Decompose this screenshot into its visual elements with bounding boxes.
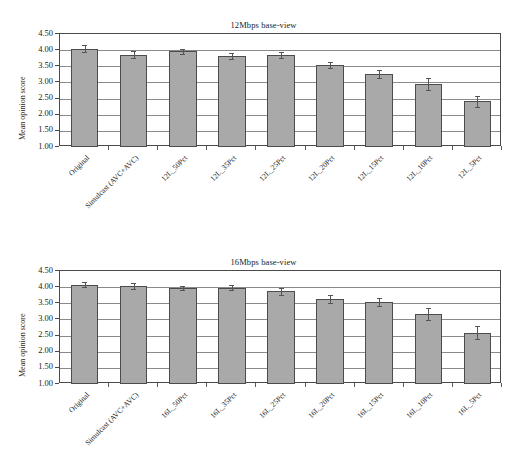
error-bar xyxy=(477,96,478,108)
x-tick-mark xyxy=(403,146,404,150)
error-bar-cap-bottom xyxy=(229,59,234,60)
error-bar-cap-top xyxy=(131,283,136,284)
y-tick-mark xyxy=(55,270,59,271)
y-tick-label: 4.00 xyxy=(25,281,53,291)
error-bar xyxy=(330,295,331,303)
chart-panel-16mbps: 16Mbps base-view Mean opinion score 1.00… xyxy=(0,237,527,474)
y-tick-label: 2.00 xyxy=(25,108,53,118)
error-bar-cap-bottom xyxy=(131,58,136,59)
x-tick-mark xyxy=(255,383,256,387)
figure-container: 12Mbps base-view Mean opinion score 1.00… xyxy=(0,0,527,474)
y-tick-mark xyxy=(55,335,59,336)
error-bar-cap-top xyxy=(279,52,284,53)
error-bar-cap-top xyxy=(377,298,382,299)
gridline xyxy=(60,50,500,51)
error-bar xyxy=(379,298,380,306)
error-bar xyxy=(477,326,478,340)
bar xyxy=(120,55,148,147)
error-bar-cap-top xyxy=(82,282,87,283)
bar xyxy=(365,74,393,147)
y-tick-mark xyxy=(55,65,59,66)
error-bar-cap-bottom xyxy=(377,306,382,307)
error-bar-cap-top xyxy=(426,308,431,309)
error-bar-cap-bottom xyxy=(475,339,480,340)
error-bar-cap-bottom xyxy=(426,320,431,321)
y-tick-mark xyxy=(55,367,59,368)
bar xyxy=(218,288,246,384)
error-bar-cap-top xyxy=(426,78,431,79)
bar xyxy=(316,65,344,147)
chart-title: 16Mbps base-view xyxy=(0,257,527,267)
error-bar-cap-top xyxy=(279,288,284,289)
error-bar-cap-top xyxy=(475,96,480,97)
error-bar-cap-top xyxy=(180,286,185,287)
y-tick-mark xyxy=(55,33,59,34)
bar xyxy=(169,51,197,147)
x-tick-mark xyxy=(501,383,502,387)
x-tick-mark xyxy=(206,383,207,387)
y-tick-label: 2.00 xyxy=(25,345,53,355)
x-tick-mark xyxy=(354,383,355,387)
error-bar-cap-bottom xyxy=(377,78,382,79)
bar xyxy=(415,314,443,384)
y-tick-mark xyxy=(55,318,59,319)
x-tick-mark xyxy=(305,146,306,150)
y-tick-label: 1.00 xyxy=(25,141,53,151)
error-bar-cap-bottom xyxy=(131,289,136,290)
error-bar-cap-bottom xyxy=(180,54,185,55)
y-tick-label: 4.00 xyxy=(25,44,53,54)
x-tick-mark xyxy=(255,146,256,150)
error-bar-cap-bottom xyxy=(475,107,480,108)
x-tick-mark xyxy=(157,383,158,387)
bar xyxy=(267,55,295,147)
x-tick-mark xyxy=(108,146,109,150)
error-bar-cap-top xyxy=(377,70,382,71)
error-bar-cap-bottom xyxy=(328,303,333,304)
y-tick-mark xyxy=(55,302,59,303)
y-tick-mark xyxy=(55,286,59,287)
y-tick-mark xyxy=(55,351,59,352)
error-bar xyxy=(428,78,429,90)
x-tick-mark xyxy=(305,383,306,387)
y-tick-label: 3.50 xyxy=(25,60,53,70)
error-bar xyxy=(428,308,429,320)
error-bar-cap-top xyxy=(180,49,185,50)
y-tick-mark xyxy=(55,81,59,82)
bar xyxy=(71,49,99,147)
error-bar-cap-top xyxy=(328,295,333,296)
y-tick-mark xyxy=(55,383,59,384)
chart-panel-12mbps: 12Mbps base-view Mean opinion score 1.00… xyxy=(0,0,527,237)
y-tick-label: 3.00 xyxy=(25,313,53,323)
chart-title: 12Mbps base-view xyxy=(0,20,527,30)
y-tick-label: 1.00 xyxy=(25,378,53,388)
error-bar-cap-bottom xyxy=(229,290,234,291)
y-tick-mark xyxy=(55,49,59,50)
bar xyxy=(415,84,443,147)
error-bar xyxy=(379,70,380,78)
x-tick-mark xyxy=(108,383,109,387)
error-bar-cap-top xyxy=(328,62,333,63)
x-tick-mark xyxy=(452,383,453,387)
bar xyxy=(169,288,197,384)
y-tick-mark xyxy=(55,146,59,147)
bar xyxy=(365,302,393,384)
error-bar-cap-top xyxy=(229,285,234,286)
y-tick-label: 4.50 xyxy=(25,28,53,38)
error-bar-cap-top xyxy=(475,326,480,327)
y-tick-mark xyxy=(55,130,59,131)
error-bar-cap-top xyxy=(229,53,234,54)
bar xyxy=(316,299,344,384)
error-bar-cap-top xyxy=(82,45,87,46)
y-tick-mark xyxy=(55,114,59,115)
bar xyxy=(120,286,148,384)
x-tick-mark xyxy=(206,146,207,150)
x-tick-mark xyxy=(501,146,502,150)
y-tick-label: 2.50 xyxy=(25,329,53,339)
y-tick-label: 1.50 xyxy=(25,361,53,371)
bar xyxy=(267,291,295,384)
bar xyxy=(464,101,492,147)
error-bar-cap-bottom xyxy=(279,295,284,296)
error-bar-cap-top xyxy=(131,51,136,52)
error-bar-cap-bottom xyxy=(279,58,284,59)
x-tick-mark xyxy=(354,146,355,150)
